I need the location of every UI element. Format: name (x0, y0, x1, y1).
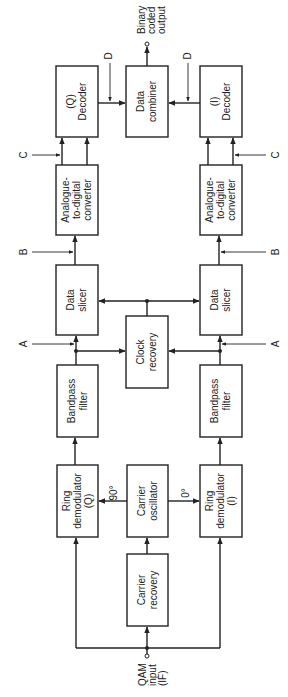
i-ring-label-2: demodulator (215, 473, 226, 529)
svg-text:0°: 0° (180, 488, 191, 498)
svg-text:D: D (103, 52, 114, 59)
binary-output-label: Binary coded output (136, 6, 167, 34)
q-decoder-label-2: Decoder (77, 82, 88, 120)
carrier-osc-label-2: oscillator (148, 481, 159, 521)
q-adc-label-2: to-digital (71, 181, 82, 219)
q-adc-block: Analogue- to-digital converter (56, 165, 98, 235)
svg-text:B: B (18, 248, 29, 255)
i-adc-label-3: converter (226, 178, 237, 220)
svg-text:C: C (18, 151, 29, 158)
i-slicer-label-2: slicer (221, 288, 232, 312)
clock-recovery-label-2: recovery (147, 333, 158, 371)
svg-text:A: A (270, 340, 281, 347)
clock-recovery-block: Clock recovery (126, 316, 168, 388)
test-point-d-left: D (103, 52, 114, 59)
i-bandpass-label-1: Bandpass (209, 379, 220, 423)
i-decoder-label-1: (I) (209, 97, 220, 106)
i-ring-demodulator-block: Ring demodulator (I) (200, 465, 242, 537)
qam-input-label: QAM input (IF) (137, 663, 168, 686)
test-point-c-left: C (18, 151, 29, 158)
carrier-recovery-block: Carrier recovery (127, 554, 168, 626)
input-terminal (145, 654, 149, 658)
q-ring-demodulator-block: Ring demodulator (Q) (57, 465, 98, 537)
test-point-a-left: A (18, 340, 29, 347)
data-combiner-label-1: Data (135, 91, 146, 113)
svg-text:output: output (156, 6, 167, 34)
i-adc-label-2: to-digital (215, 181, 226, 219)
i-decoder-block: (I) Decoder (200, 66, 242, 137)
q-decoder-block: (Q) Decoder (56, 66, 98, 137)
carrier-oscillator-block: Carrier oscillator (127, 465, 168, 537)
phase-0-label: 0° (180, 488, 191, 498)
test-point-c-right: C (270, 151, 281, 158)
phase-90-label: 90° (108, 485, 119, 500)
data-combiner-block: Data combiner (126, 66, 168, 137)
svg-text:(IF): (IF) (157, 670, 168, 686)
test-point-d-right: D (182, 52, 193, 59)
q-ring-label-1: Ring (61, 491, 72, 512)
q-adc-label-3: converter (82, 178, 93, 220)
i-data-slicer-block: Data slicer (200, 265, 242, 335)
i-adc-block: Analogue- to-digital converter (200, 165, 242, 235)
q-data-slicer-block: Data slicer (56, 265, 98, 335)
test-point-b-left: B (18, 248, 29, 255)
q-slicer-label-2: slicer (77, 288, 88, 312)
q-ring-label-2: demodulator (72, 473, 83, 529)
i-ring-label-3: (I) (226, 496, 237, 505)
carrier-recovery-label-1: Carrier (136, 574, 147, 605)
svg-text:D: D (182, 52, 193, 59)
i-decoder-label-2: Decoder (221, 82, 232, 120)
i-bandpass-filter-block: Bandpass filter (200, 365, 242, 437)
test-point-b-right: B (270, 248, 281, 255)
q-slicer-label-1: Data (65, 289, 76, 311)
q-bandpass-filter-block: Bandpass filter (57, 365, 98, 437)
svg-text:90°: 90° (108, 485, 119, 500)
q-ring-label-3: (Q) (83, 494, 94, 508)
q-decoder-label-1: (Q) (65, 94, 76, 108)
carrier-osc-label-1: Carrier (136, 485, 147, 516)
output-terminal (145, 42, 149, 46)
i-ring-label-1: Ring (204, 491, 215, 512)
q-adc-label-1: Analogue- (60, 177, 71, 223)
i-bandpass-label-2: filter (221, 391, 232, 411)
svg-text:A: A (18, 340, 29, 347)
test-point-a-right: A (270, 340, 281, 347)
q-bandpass-label-2: filter (78, 391, 89, 411)
svg-text:C: C (270, 151, 281, 158)
carrier-recovery-label-2: recovery (148, 571, 159, 609)
data-combiner-label-2: combiner (147, 80, 158, 122)
q-bandpass-label-1: Bandpass (66, 379, 77, 423)
i-slicer-label-1: Data (209, 289, 220, 311)
i-adc-label-1: Analogue- (204, 177, 215, 223)
clock-recovery-label-1: Clock (135, 339, 146, 365)
svg-text:B: B (270, 248, 281, 255)
